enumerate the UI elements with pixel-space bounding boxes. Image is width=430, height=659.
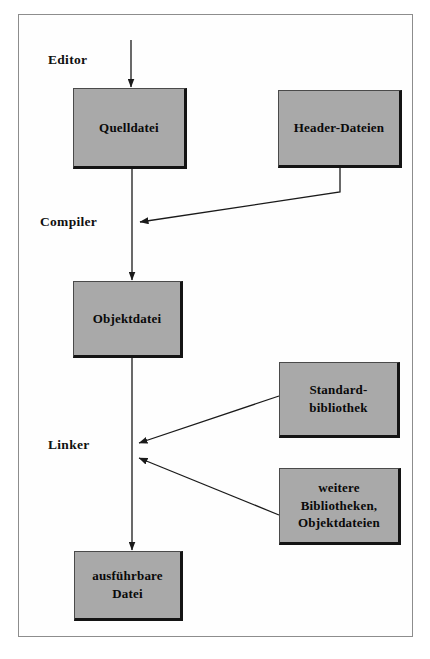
edge-standardbibliothek-to-linker xyxy=(139,396,279,443)
edge-header-to-compiler xyxy=(140,167,340,222)
node-weitere-bibliotheken-label: weitere Bibliotheken, Objektdateien xyxy=(294,479,384,532)
diagram-page: Editor Compiler Linker Quelldatei Header… xyxy=(0,0,430,659)
node-quelldatei[interactable]: Quelldatei xyxy=(73,88,187,169)
node-standardbibliothek-label: Standard- bibliothek xyxy=(305,381,371,416)
node-standardbibliothek[interactable]: Standard- bibliothek xyxy=(279,362,400,438)
stage-label-compiler: Compiler xyxy=(40,214,97,230)
node-ausfuehrbare-datei[interactable]: ausführbare Datei xyxy=(74,551,183,621)
node-header-dateien[interactable]: Header-Dateien xyxy=(278,90,402,168)
stage-label-linker: Linker xyxy=(48,437,90,453)
node-header-dateien-label: Header-Dateien xyxy=(290,119,388,137)
node-objektdatei-label: Objektdatei xyxy=(89,310,166,328)
node-weitere-bibliotheken[interactable]: weitere Bibliotheken, Objektdateien xyxy=(279,468,401,545)
node-quelldatei-label: Quelldatei xyxy=(95,119,163,137)
stage-label-editor: Editor xyxy=(48,52,87,68)
node-objektdatei[interactable]: Objektdatei xyxy=(73,281,183,358)
edge-weitere-to-linker xyxy=(139,458,279,515)
node-ausfuehrbare-datei-label: ausführbare Datei xyxy=(88,567,167,602)
